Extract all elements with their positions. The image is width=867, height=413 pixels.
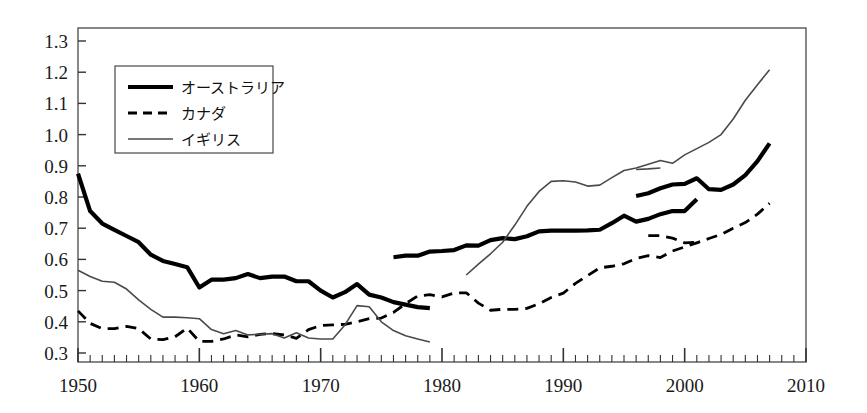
y-tick-label: 0.9 [44, 156, 68, 177]
y-tick-label: 0.8 [44, 187, 68, 208]
y-tick-label: 0.5 [44, 281, 68, 302]
x-tick-label: 2000 [666, 375, 704, 396]
y-tick-label: 1.0 [44, 125, 68, 146]
x-tick-label: 2010 [787, 375, 825, 396]
y-tick-label: 0.7 [44, 218, 68, 239]
x-tick-label: 1990 [544, 375, 582, 396]
y-tick-label: 1.1 [44, 93, 68, 114]
legend-label-1: オーストラリア [181, 79, 285, 96]
y-tick-label: 0.4 [44, 312, 68, 333]
legend: オーストラリアカナダイギリス [115, 66, 285, 153]
y-tick-label: 0.6 [44, 249, 68, 270]
line-chart: 0.30.40.50.60.70.80.91.01.11.21.31950196… [0, 0, 867, 413]
x-tick-label: 1970 [302, 375, 340, 396]
y-tick-label: 1.3 [44, 31, 68, 52]
x-tick-label: 1950 [59, 375, 97, 396]
legend-label-2: カナダ [181, 105, 226, 122]
y-tick-label: 1.2 [44, 62, 68, 83]
y-tick-label: 0.3 [44, 343, 68, 364]
chart-figure: 0.30.40.50.60.70.80.91.01.11.21.31950196… [0, 0, 867, 413]
x-tick-label: 1980 [423, 375, 461, 396]
x-tick-label: 1960 [180, 375, 218, 396]
legend-label-3: イギリス [181, 131, 241, 148]
